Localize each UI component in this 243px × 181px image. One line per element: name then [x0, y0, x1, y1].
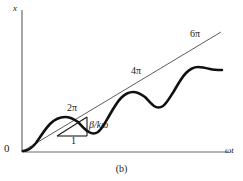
staircase-curve	[23, 67, 222, 151]
figure-container: x ωt 0 2π 4π 6π β/kω 1 (b)	[0, 0, 243, 181]
tick-label-2pi: 2π	[67, 103, 77, 113]
figure-caption: (b)	[0, 163, 243, 174]
tick-label-4pi: 4π	[131, 66, 141, 76]
y-axis-label: x	[13, 4, 17, 13]
run-annotation-label: 1	[71, 136, 76, 146]
plot-canvas	[0, 0, 243, 181]
x-axis-label: ωt	[225, 146, 234, 155]
mean-drift-line	[23, 32, 221, 151]
tick-label-6pi: 6π	[190, 29, 200, 39]
origin-label: 0	[4, 143, 10, 154]
slope-annotation-label: β/kω	[89, 120, 108, 130]
